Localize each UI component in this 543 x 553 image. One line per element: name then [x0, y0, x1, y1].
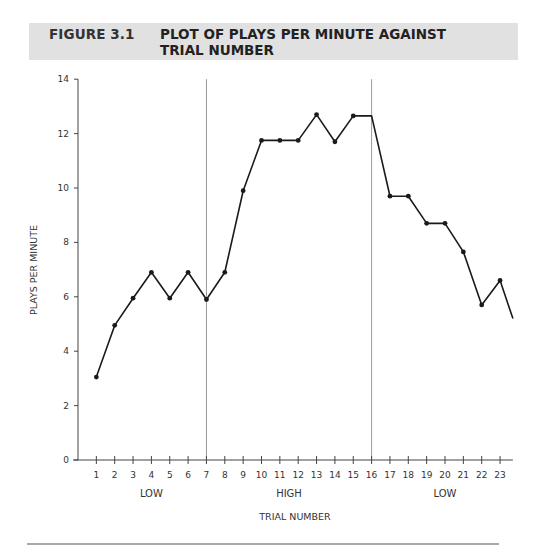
phase-dividers — [206, 79, 371, 460]
x-tick-label: 8 — [222, 470, 228, 480]
x-tick-label: 14 — [329, 470, 341, 480]
y-tick-label: 8 — [63, 237, 69, 247]
data-point — [296, 138, 301, 143]
x-tick-label: 17 — [384, 470, 395, 480]
data-point — [388, 194, 393, 199]
data-point — [406, 194, 411, 199]
y-tick-label: 0 — [63, 455, 69, 465]
y-tick-label: 6 — [63, 292, 69, 302]
data-point — [259, 138, 264, 143]
data-point — [204, 297, 209, 302]
data-point — [443, 221, 448, 226]
data-point — [333, 139, 338, 144]
data-point — [149, 270, 154, 275]
x-tick-label: 13 — [311, 470, 322, 480]
x-tick-label: 3 — [130, 470, 136, 480]
data-point — [167, 296, 172, 301]
x-tick-label: 10 — [256, 470, 268, 480]
phase-label: LOW — [140, 488, 163, 499]
x-tick-label: 4 — [149, 470, 155, 480]
x-axis-label: TRIAL NUMBER — [258, 511, 331, 522]
x-tick-label: 18 — [403, 470, 415, 480]
phase-labels: LOWHIGHLOW — [140, 488, 457, 499]
y-axis-ticks: 02468101214 — [58, 74, 78, 465]
data-point — [461, 250, 466, 255]
data-point — [112, 323, 117, 328]
x-tick-label: 7 — [204, 470, 210, 480]
y-tick-label: 14 — [58, 74, 70, 84]
data-point — [498, 278, 503, 283]
x-tick-label: 19 — [421, 470, 433, 480]
y-tick-label: 4 — [63, 346, 69, 356]
line-chart: 02468101214 1234567891011121314151617181… — [0, 0, 543, 553]
x-tick-label: 15 — [348, 470, 359, 480]
x-tick-label: 22 — [476, 470, 487, 480]
data-point — [241, 188, 246, 193]
phase-label: LOW — [434, 488, 457, 499]
y-tick-label: 10 — [58, 183, 70, 193]
axes — [73, 79, 513, 460]
x-tick-label: 6 — [185, 470, 191, 480]
x-tick-label: 21 — [458, 470, 469, 480]
data-point — [131, 296, 136, 301]
x-tick-label: 2 — [112, 470, 118, 480]
data-point — [479, 303, 484, 308]
data-point — [94, 375, 99, 380]
x-tick-label: 5 — [167, 470, 173, 480]
x-tick-label: 9 — [240, 470, 246, 480]
y-tick-label: 12 — [58, 129, 69, 139]
data-point — [351, 114, 356, 119]
x-tick-label: 23 — [494, 470, 505, 480]
x-tick-label: 16 — [366, 470, 378, 480]
data-point — [277, 138, 282, 143]
data-point — [314, 112, 319, 117]
y-axis-label: PLAYS PER MINUTE — [28, 225, 39, 315]
x-tick-label: 12 — [292, 470, 303, 480]
x-tick-label: 20 — [439, 470, 451, 480]
x-tick-label: 1 — [93, 470, 99, 480]
data-point — [186, 270, 191, 275]
data-point — [424, 221, 429, 226]
data-markers — [94, 112, 503, 379]
x-tick-label: 11 — [274, 470, 285, 480]
data-line — [96, 115, 513, 377]
phase-label: HIGH — [276, 488, 302, 499]
y-tick-label: 2 — [63, 401, 69, 411]
data-point — [222, 270, 227, 275]
